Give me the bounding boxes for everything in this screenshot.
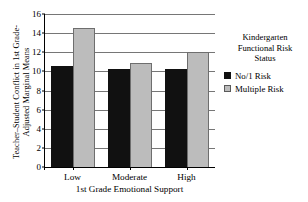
bar-group xyxy=(158,14,215,167)
x-tick-mark xyxy=(44,167,45,170)
bar xyxy=(187,52,209,167)
legend-item-label: No/1 Risk xyxy=(235,71,271,81)
x-axis-title: 1st Grade Emotional Support xyxy=(44,184,215,195)
plot-area: 0246810121416 xyxy=(44,14,215,168)
light-gray-square-icon xyxy=(224,85,231,92)
legend-item: Multiple Risk xyxy=(222,84,308,94)
x-tick-label: High xyxy=(177,172,195,183)
bar xyxy=(73,28,95,167)
y-axis-title-text: Teacher–Student Conflict in 1st Grade- A… xyxy=(12,25,33,159)
bar-chart-figure: Teacher–Student Conflict in 1st Grade- A… xyxy=(0,0,308,202)
legend-title: Kindergarten Functional Risk Status xyxy=(222,32,308,64)
bar xyxy=(130,63,152,167)
bar-group xyxy=(102,14,159,167)
x-tick-mark xyxy=(73,167,74,170)
legend-item: No/1 Risk xyxy=(222,71,308,81)
x-tick-mark xyxy=(187,167,188,170)
bar xyxy=(165,69,187,167)
y-axis-title: Teacher–Student Conflict in 1st Grade- A… xyxy=(0,8,44,176)
x-tick-label: Moderate xyxy=(112,172,147,183)
bar xyxy=(51,66,73,167)
bar-group xyxy=(45,14,102,167)
legend-entries: No/1 RiskMultiple Risk xyxy=(222,71,308,94)
bar xyxy=(108,69,130,167)
legend: Kindergarten Functional Risk Status No/1… xyxy=(222,32,308,94)
x-tick-mark xyxy=(130,167,131,170)
dark-square-icon xyxy=(224,72,231,79)
legend-item-label: Multiple Risk xyxy=(235,84,284,94)
bar-groups xyxy=(45,14,215,167)
x-tick-label: Low xyxy=(64,172,81,183)
